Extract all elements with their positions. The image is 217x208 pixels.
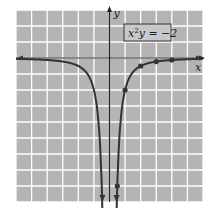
- equation-label-box: x2y = −2: [124, 24, 177, 41]
- y-axis-label: y: [113, 7, 121, 20]
- data-point: [122, 87, 127, 92]
- data-point: [154, 59, 159, 64]
- data-point: [169, 57, 174, 62]
- graph: x y x2y = −2: [0, 0, 217, 208]
- data-point: [115, 183, 120, 188]
- x-axis-label: x: [195, 61, 202, 74]
- y-axis-arrow-icon: [107, 6, 112, 12]
- data-point: [138, 63, 143, 68]
